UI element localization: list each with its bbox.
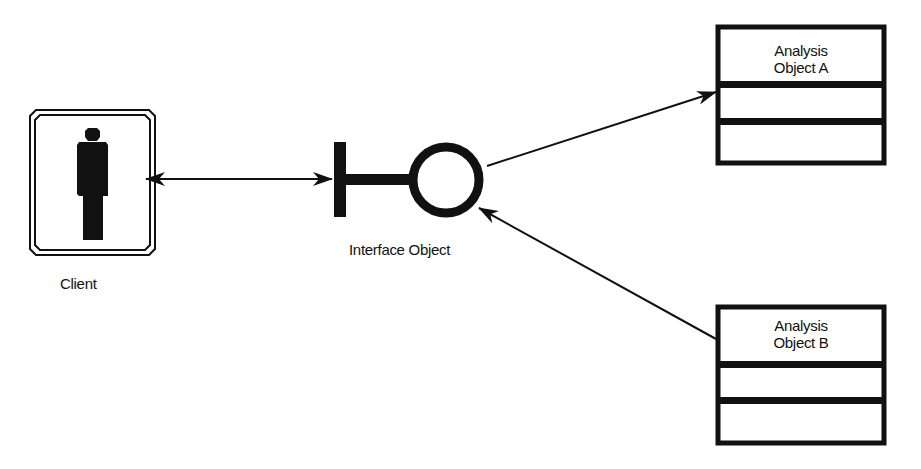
analysis-object-a-title-line2: Object A: [720, 59, 882, 76]
analysis-object-a-title-line1: Analysis: [720, 42, 882, 59]
compartment-divider: [718, 81, 884, 88]
compartment-divider: [718, 397, 884, 404]
analysis-object-b-title: Analysis Object B: [720, 317, 882, 351]
boundary-bar: [334, 142, 346, 217]
compartment-divider: [718, 361, 884, 368]
analysis-object-b-title-line2: Object B: [720, 334, 882, 351]
interface-to-analysis-a-connector[interactable]: [487, 92, 716, 166]
interface-object[interactable]: [334, 142, 479, 217]
analysis-b-to-interface-connector[interactable]: [479, 208, 716, 339]
analysis-object-a-title: Analysis Object A: [720, 42, 882, 76]
analysis-object-b-title-line1: Analysis: [720, 317, 882, 334]
client-label: Client: [60, 275, 97, 292]
boundary-stem: [346, 174, 410, 185]
interface-object-label: Interface Object: [349, 241, 450, 258]
person-icon: [77, 128, 108, 240]
boundary-circle: [413, 147, 479, 213]
compartment-divider: [718, 118, 884, 125]
client-actor[interactable]: [30, 110, 155, 255]
